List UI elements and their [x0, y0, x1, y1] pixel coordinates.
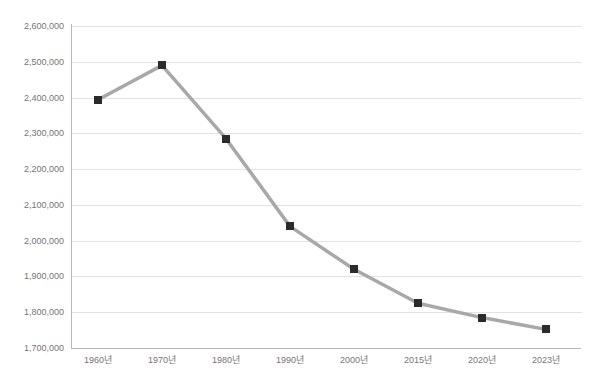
- data-point-marker: [414, 299, 422, 307]
- data-point-marker: [478, 314, 486, 322]
- plot-area: [72, 26, 580, 348]
- data-point-marker: [222, 135, 230, 143]
- series-line-path: [72, 26, 580, 348]
- data-point-marker: [542, 325, 550, 333]
- y-axis-tick-label: 2,400,000: [0, 93, 64, 103]
- y-axis-tick-label: 2,500,000: [0, 57, 64, 67]
- y-axis-tick-label: 2,200,000: [0, 164, 64, 174]
- y-axis-tick-label: 1,700,000: [0, 343, 64, 353]
- line-chart: 2,600,0002,500,0002,400,0002,300,0002,20…: [0, 0, 602, 389]
- y-axis-tick-label: 1,800,000: [0, 307, 64, 317]
- y-axis-tick-label: 1,900,000: [0, 271, 64, 281]
- y-axis-tick-label: 2,100,000: [0, 200, 64, 210]
- data-point-marker: [286, 222, 294, 230]
- data-point-marker: [94, 96, 102, 104]
- y-axis-tick-label: 2,300,000: [0, 128, 64, 138]
- data-point-marker: [158, 61, 166, 69]
- x-axis-line: [71, 348, 581, 349]
- y-axis-tick-label: 2,000,000: [0, 236, 64, 246]
- x-axis-tick-label: 2023년: [506, 355, 586, 365]
- y-axis-tick-label: 2,600,000: [0, 21, 64, 31]
- series-polyline: [98, 65, 546, 329]
- data-point-marker: [350, 265, 358, 273]
